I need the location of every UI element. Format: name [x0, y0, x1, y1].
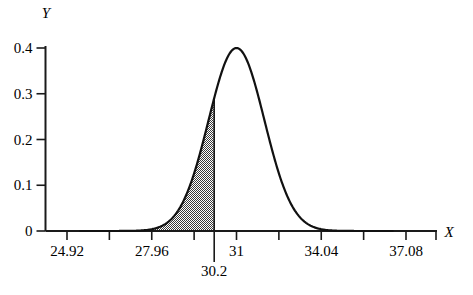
x-axis-tick-label: 31: [229, 243, 244, 259]
x-axis-tick-label: 34.04: [304, 243, 338, 259]
y-axis-tick-label: 0: [25, 223, 33, 239]
y-axis-tick-label: 0.3: [14, 86, 33, 102]
y-axis-tick-label: 0.4: [14, 40, 33, 56]
x-axis-tick-label: 24.92: [50, 243, 84, 259]
x-axis-title: X: [443, 224, 454, 240]
x-axis-tick-label: 27.96: [135, 243, 169, 259]
chart-figure: 24.9227.963134.0437.08 00.10.20.30.4 Y X…: [0, 0, 473, 295]
y-axis-tick-label: 0.2: [14, 132, 33, 148]
boundary-label: 30.2: [201, 263, 227, 279]
x-axis-tick-label: 37.08: [389, 243, 423, 259]
normal-distribution-chart: 24.9227.963134.0437.08 00.10.20.30.4 Y X…: [0, 0, 473, 295]
y-axis-tick-label: 0.1: [14, 177, 33, 193]
